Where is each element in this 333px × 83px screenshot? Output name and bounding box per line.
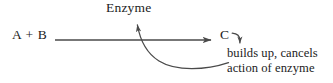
reactants-label: A + B <box>12 28 47 42</box>
product-label: C <box>220 28 229 42</box>
feedback-note-line-1: builds up, cancels <box>227 46 318 60</box>
enzyme-label: Enzyme <box>106 1 151 15</box>
feedback-note-line-2: action of enzyme <box>227 61 318 76</box>
feedback-inhibition-arrow <box>137 25 228 69</box>
enzyme-feedback-diagram: Enzyme A + B C builds up, cancels action… <box>0 0 333 83</box>
feedback-note: builds up, cancels action of enzyme <box>227 46 318 75</box>
product-to-note-arrow <box>232 33 240 43</box>
